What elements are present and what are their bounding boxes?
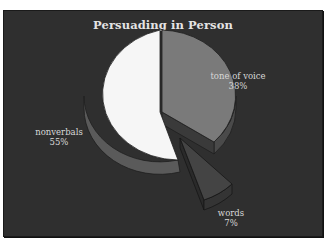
label-words-name: words: [211, 208, 251, 218]
label-words: words 7%: [211, 208, 251, 228]
pie-chart: [0, 0, 327, 241]
label-nonverbals-name: nonverbals: [24, 127, 94, 137]
label-nonverbals: nonverbals 55%: [24, 127, 94, 147]
label-tone-pct: 38%: [198, 81, 278, 91]
label-tone-name: tone of voice: [198, 71, 278, 81]
label-nonverbals-pct: 55%: [24, 137, 94, 147]
label-words-pct: 7%: [211, 218, 251, 228]
label-tone-of-voice: tone of voice 38%: [198, 71, 278, 91]
